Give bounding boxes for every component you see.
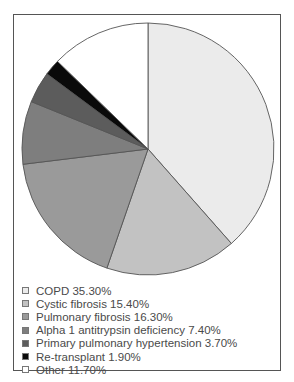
swatch-icon — [22, 313, 29, 320]
legend-label: Alpha 1 antitrypsin deficiency 7.40% — [36, 324, 221, 336]
legend-label: Primary pulmonary hypertension 3.70% — [36, 337, 237, 349]
legend-item-cystic-fibrosis: Cystic fibrosis 15.40% — [22, 297, 237, 310]
swatch-icon — [22, 353, 29, 360]
legend-label: Pulmonary fibrosis 16.30% — [36, 311, 173, 323]
legend-label: Other 11.70% — [36, 364, 106, 376]
legend-label: COPD 35.30% — [36, 285, 111, 297]
legend: COPD 35.30% Cystic fibrosis 15.40% Pulmo… — [22, 284, 237, 376]
legend-label: Re-transplant 1.90% — [36, 351, 141, 363]
legend-item-pph: Primary pulmonary hypertension 3.70% — [22, 337, 237, 350]
legend-item-copd: COPD 35.30% — [22, 284, 237, 297]
legend-item-alpha1: Alpha 1 antitrypsin deficiency 7.40% — [22, 324, 237, 337]
swatch-icon — [22, 300, 29, 307]
legend-item-other: Other 11.70% — [22, 363, 237, 376]
swatch-icon — [22, 287, 29, 294]
legend-item-retransplant: Re-transplant 1.90% — [22, 350, 237, 363]
swatch-icon — [22, 340, 29, 347]
legend-label: Cystic fibrosis 15.40% — [36, 298, 149, 310]
pie-slices — [22, 23, 274, 275]
swatch-icon — [22, 327, 29, 334]
legend-item-pulmonary-fibrosis: Pulmonary fibrosis 16.30% — [22, 310, 237, 323]
swatch-icon — [22, 366, 29, 373]
